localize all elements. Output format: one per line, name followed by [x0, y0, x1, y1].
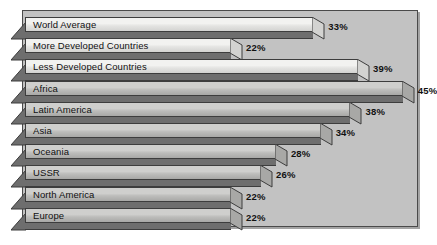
bar-body: [25, 165, 261, 180]
bar-value-label: 28%: [291, 147, 311, 160]
bar-category-label: Asia: [33, 123, 52, 138]
bar-category-label: North America: [33, 187, 95, 202]
bar-end-cap: [357, 59, 371, 81]
bar-value-label: 22%: [246, 211, 266, 224]
bar-left-shadow: [11, 187, 26, 209]
bar-body: [25, 123, 321, 138]
bar-value-label: 26%: [276, 168, 296, 181]
bar-left-shadow: [11, 81, 26, 103]
bar-end-cap: [230, 38, 244, 60]
bar-left-shadow: [11, 208, 26, 230]
bar-category-label: Latin America: [33, 102, 92, 117]
bar-end-cap: [312, 17, 326, 39]
bar-body: [25, 81, 403, 96]
bar-left-shadow: [11, 123, 26, 145]
bar-end-cap: [230, 208, 244, 230]
bar-end-cap: [230, 187, 244, 209]
bar-left-shadow: [11, 165, 26, 187]
bars-layer: World Average33%More Developed Countries…: [0, 0, 437, 245]
bar-end-cap: [320, 123, 334, 145]
bar-category-label: Less Developed Countries: [33, 59, 147, 74]
bar-left-shadow: [11, 17, 26, 39]
bar-category-label: Europe: [33, 208, 64, 223]
bar-end-cap: [402, 81, 416, 103]
bar-end-cap: [260, 165, 274, 187]
bar-value-label: 38%: [365, 105, 385, 118]
bar-value-label: 39%: [373, 62, 393, 75]
bar-category-label: World Average: [33, 17, 96, 32]
bar-left-shadow: [11, 144, 26, 166]
bar-category-label: USSR: [33, 165, 60, 180]
bar-value-label: 22%: [246, 190, 266, 203]
bar-left-shadow: [11, 102, 26, 124]
bar-value-label: 33%: [328, 20, 348, 33]
bar-end-cap: [349, 102, 363, 124]
bar-left-shadow: [11, 38, 26, 60]
bar-category-label: More Developed Countries: [33, 38, 148, 53]
bar-end-cap: [275, 144, 289, 166]
bar-category-label: Oceania: [33, 144, 69, 159]
bar-chart: World Average33%More Developed Countries…: [0, 0, 437, 245]
bar-value-label: 34%: [336, 126, 356, 139]
bar-value-label: 45%: [418, 84, 437, 97]
bar-value-label: 22%: [246, 41, 266, 54]
bar-category-label: Africa: [33, 81, 58, 96]
bar-underside: [25, 223, 231, 230]
bar-left-shadow: [11, 59, 26, 81]
